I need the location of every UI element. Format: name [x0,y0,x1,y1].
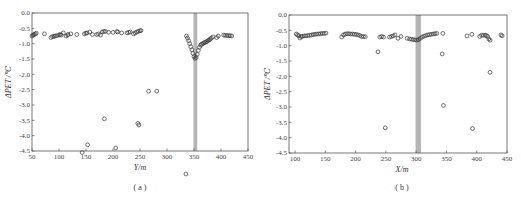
x-tick-label: 250 [135,153,146,161]
y-tick-label: -1.0 [276,42,288,50]
caption-b: ( b ) [395,183,409,192]
data-point [499,33,503,37]
y-tick-label: -0.5 [19,25,31,33]
chart-panel-a: 0.0-0.5-1.0-1.5-2.0-2.5-3.0-3.5-4.0-4.55… [19,9,254,176]
y-tick-label: 0.0 [278,11,287,19]
data-point [184,172,188,176]
x-tick-label: 150 [320,155,331,163]
data-point [86,143,90,147]
x-tick-label: 300 [411,155,422,163]
x-tick-label: 100 [290,155,301,163]
data-point [470,32,474,36]
chart-panel-b: 0.0-0.5-1.0-1.5-2.0-2.5-3.0-3.5-4.0-4.51… [276,11,513,163]
data-point [69,32,73,36]
caption-a: ( a ) [134,183,147,192]
x-tick-label: 450 [243,153,254,161]
data-point [43,32,47,36]
y-tick-label: -4.0 [276,134,288,142]
y-tick-label: -2.5 [276,88,288,96]
y-tick-label: -1.5 [19,55,31,63]
x-tick-label: 300 [162,153,173,161]
x-tick-label: 400 [471,155,482,163]
data-point [376,50,380,54]
x-tick-label: 100 [54,153,65,161]
x-tick-label: 200 [350,155,361,163]
highlight-band [193,13,197,151]
data-point [465,34,469,38]
plot-frame [289,15,507,153]
data-point [441,32,445,36]
data-point [471,127,475,131]
data-point [114,146,118,150]
y-tick-label: 0.0 [21,9,30,17]
y-tick-label: -1.5 [276,57,288,65]
plot-frame [32,13,248,151]
y-axis-label-b: ΔPET /℃ [263,67,272,101]
y-tick-label: -2.0 [276,73,288,81]
data-point [120,31,124,35]
x-tick-label: 400 [216,153,227,161]
data-point [147,89,151,93]
data-point [442,104,446,108]
y-tick-label: -3.0 [276,103,288,111]
x-tick-label: 350 [441,155,452,163]
highlight-band [416,15,421,153]
y-tick-label: -2.5 [19,86,31,94]
chart-figure: 0.0-0.5-1.0-1.5-2.0-2.5-3.0-3.5-4.0-4.55… [0,0,521,201]
y-axis-label-a: ΔPET /℃ [4,65,13,99]
x-axis-label-a: Y/m [134,163,147,172]
data-point [91,33,95,37]
y-tick-label: -0.5 [276,27,288,35]
x-tick-label: 350 [189,153,200,161]
data-point [440,52,444,56]
y-tick-label: -4.5 [276,149,288,157]
data-point [155,89,159,93]
x-tick-label: 200 [108,153,119,161]
x-tick-label: 50 [29,153,37,161]
y-tick-label: -4.0 [19,132,31,140]
y-tick-label: -3.5 [276,119,288,127]
y-tick-label: -3.0 [19,101,31,109]
data-point [488,70,492,74]
data-point [102,117,106,121]
y-tick-label: -1.0 [19,40,31,48]
data-point [75,33,79,37]
data-point [500,34,504,38]
data-point [399,35,403,39]
data-point [383,126,387,130]
x-tick-label: 450 [502,155,513,163]
x-tick-label: 250 [381,155,392,163]
y-tick-label: -2.0 [19,71,31,79]
data-point [111,30,115,34]
y-tick-label: -3.5 [19,117,31,125]
x-axis-label-b: X/m [395,165,409,174]
